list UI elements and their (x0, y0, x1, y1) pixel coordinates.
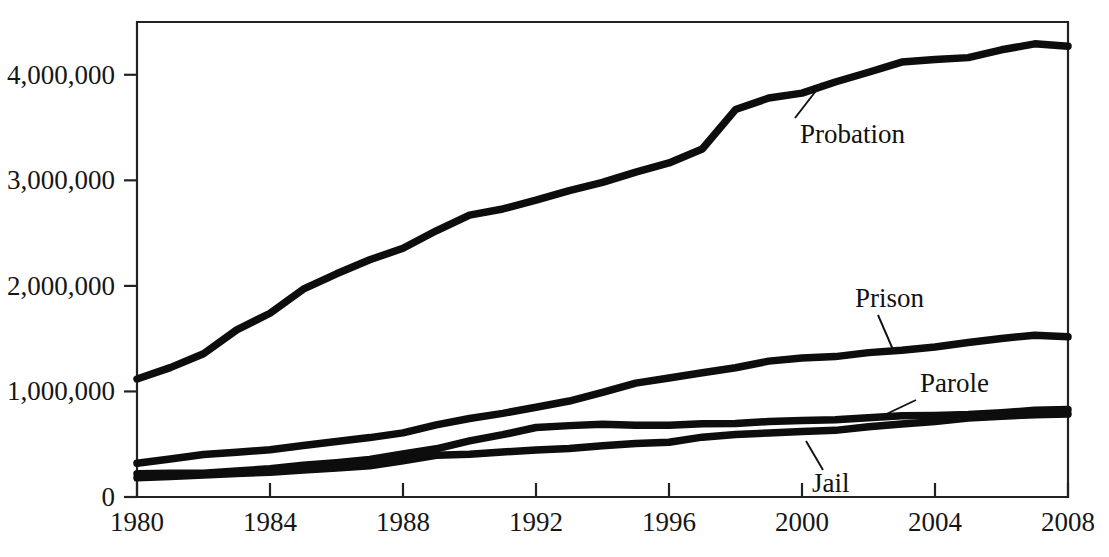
chart-root: 01,000,0002,000,0003,000,0004,000,000 19… (0, 0, 1109, 557)
y-tick-label: 2,000,000 (7, 271, 115, 301)
series-label-jail: Jail (812, 468, 850, 498)
x-tick-label: 1988 (376, 507, 430, 537)
x-tick-label: 2000 (775, 507, 829, 537)
series-label-parole: Parole (920, 368, 989, 398)
y-tick-label: 1,000,000 (7, 376, 115, 406)
x-tick-label: 1980 (110, 507, 164, 537)
series-label-probation: Probation (800, 119, 905, 149)
x-tick-label: 2008 (1041, 507, 1095, 537)
y-tick-label: 3,000,000 (7, 165, 115, 195)
x-tick-label: 2004 (908, 507, 963, 537)
x-tick-label: 1996 (642, 507, 696, 537)
x-tick-label: 1984 (243, 507, 298, 537)
y-tick-label: 4,000,000 (7, 60, 115, 90)
series-label-prison: Prison (855, 283, 925, 313)
x-tick-label: 1992 (509, 507, 563, 537)
correctional-population-line-chart: 01,000,0002,000,0003,000,0004,000,000 19… (0, 0, 1109, 557)
